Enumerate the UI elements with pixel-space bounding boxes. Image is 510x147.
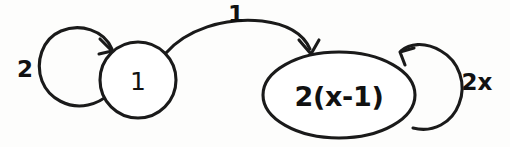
state-transition-diagram: 1 2(x-1) 2 1 2x [0,0,510,147]
self-loop-right-arrowhead [400,48,414,65]
node-two-x-minus-one[interactable]: 2(x-1) [263,52,415,138]
diagram-canvas: 1 2(x-1) 2 1 2x [0,0,510,147]
edge-one-to-two-label: 1 [228,1,244,27]
self-loop-left-label: 2 [17,56,33,82]
self-loop-right-label: 2x [462,69,493,95]
node-two-x-minus-one-label: 2(x-1) [294,81,383,112]
node-one-label: 1 [130,67,146,96]
node-one[interactable]: 1 [100,42,176,118]
